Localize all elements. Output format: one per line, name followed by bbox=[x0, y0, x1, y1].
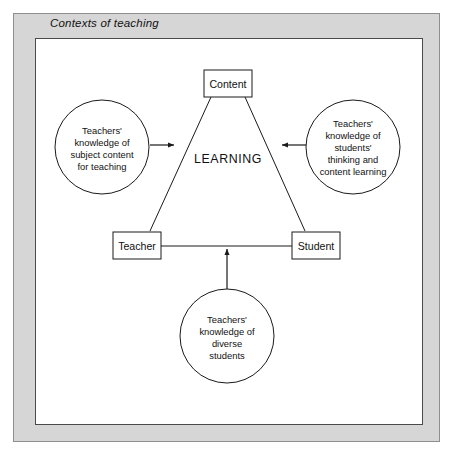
diagram-canvas: Contexts of teaching Teachers' knowledg bbox=[0, 0, 455, 455]
frame-title: Contexts of teaching bbox=[50, 17, 159, 29]
inner-diagram-panel bbox=[35, 38, 423, 425]
